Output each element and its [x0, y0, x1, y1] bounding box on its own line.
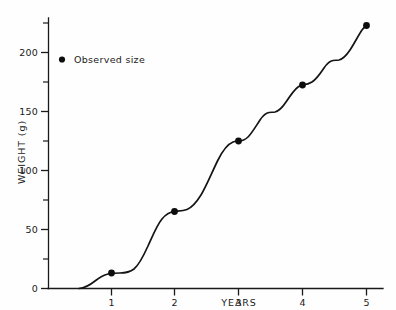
data-point-year-2: [171, 208, 178, 215]
legend-label: Observed size: [74, 54, 145, 65]
x-tick-label-1: 1: [108, 297, 114, 308]
x-tick-label-5: 5: [363, 297, 369, 308]
x-tick-label-4: 4: [299, 297, 305, 308]
chart-background: [0, 0, 396, 310]
y-tick-label-50: 50: [26, 224, 39, 235]
data-point-year-5: [363, 22, 370, 29]
data-point-year-3: [235, 138, 242, 145]
y-tick-label-200: 200: [19, 47, 38, 58]
y-tick-label-0: 0: [32, 283, 38, 294]
x-axis-title: YEARS: [220, 297, 256, 308]
y-tick-label-150: 150: [19, 106, 38, 117]
growth-curve-chart: 0 50 100 150 200 1 2 3 4 5 YEARS WEIGHT …: [0, 0, 396, 310]
chart-figure: 0 50 100 150 200 1 2 3 4 5 YEARS WEIGHT …: [0, 0, 396, 310]
data-point-year-4: [299, 82, 306, 89]
x-tick-label-2: 2: [171, 297, 177, 308]
y-axis-title: WEIGHT (g): [16, 120, 27, 184]
legend-marker-icon: [59, 56, 65, 62]
data-point-year-1: [108, 270, 115, 277]
